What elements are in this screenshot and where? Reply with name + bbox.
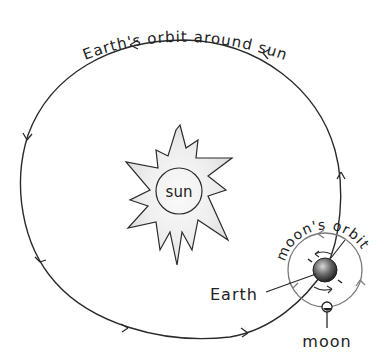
- earth-leader-line: [266, 274, 316, 292]
- sun-label: sun: [166, 183, 193, 201]
- sun: sun: [126, 125, 232, 265]
- moon: [322, 302, 332, 328]
- earth-label: Earth: [210, 285, 258, 304]
- solar-orbit-diagram: Earth's orbit around sun sun moon's orbi…: [0, 0, 391, 363]
- moon-label: moon: [302, 332, 351, 351]
- moon-orbit-label: moon's orbit: [272, 216, 373, 263]
